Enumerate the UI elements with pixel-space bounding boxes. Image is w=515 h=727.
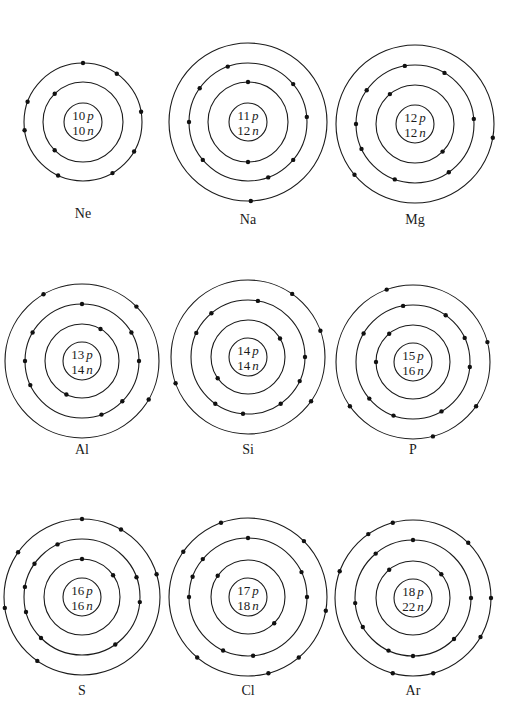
electron-dot [23,359,27,363]
electron-dot [35,659,39,663]
electron-dot [129,330,133,334]
electron-dot [403,64,407,68]
electron-dot [348,404,352,408]
electron-dot [16,550,20,554]
element-symbol-label: P [409,442,417,457]
proton-count: 12p [404,110,426,125]
neutron-count: 22n [402,599,424,614]
electron-dot [444,313,448,317]
atom-cl: 17p18nCl [169,518,328,698]
electron-dot [22,128,26,132]
electron-dot [53,148,57,152]
electron-dot [353,601,357,605]
electron-dot [55,542,59,546]
electron-dot [139,110,143,114]
electron-dot [209,311,213,315]
electron-dot [226,64,230,68]
proton-count: 16p [71,583,93,598]
proton-count: 14p [237,343,259,358]
electron-dot [194,331,198,335]
electron-dot [41,292,45,296]
electron-dot [361,625,365,629]
electron-dot [110,171,114,175]
electron-dot [266,175,270,179]
electron-dot [338,569,342,573]
electron-dot [359,147,363,151]
atom-ar: 18p22nAr [335,520,493,698]
electron-dot [173,381,177,385]
electron-dot [111,573,115,577]
electron-dot [318,329,322,333]
electron-dot [374,551,378,555]
electron-dot [447,170,451,174]
neutron-count: 16n [402,363,424,378]
electron-dot [219,521,223,525]
electron-dot [366,532,370,536]
electron-dot [39,636,43,640]
atom-si: 14p14nSi [171,280,325,457]
electron-dot [463,336,467,340]
electron-dot [80,557,84,561]
electron-dot [28,383,32,387]
electron-dot [391,521,395,525]
electron-dot [352,173,356,177]
element-symbol-label: Ar [406,683,421,698]
electron-dot [452,637,456,641]
electron-dot [81,61,85,65]
electron-dot [98,327,102,331]
neutron-count: 18n [237,598,259,613]
electron-dot [272,621,276,625]
electron-dot [472,117,476,121]
electron-dot [440,149,444,153]
proton-count: 18p [402,584,424,599]
electron-dot [278,336,282,340]
electron-dot [64,392,68,396]
electron-dot [23,585,27,589]
electron-dot [221,648,225,652]
electron-dot [115,72,119,76]
electron-dot [388,92,392,96]
electron-dot [99,412,103,416]
neutron-count: 12n [404,125,426,140]
electron-dot [361,331,365,335]
element-symbol-label: Si [242,442,254,457]
electron-dot [25,100,29,104]
neutron-count: 16n [71,598,93,613]
electron-dot [154,572,158,576]
element-symbol-label: Al [75,442,89,457]
electron-dot [411,654,415,658]
proton-count: 13p [71,347,93,362]
proton-count: 17p [237,583,259,598]
electron-dot [305,595,309,599]
electron-dot [80,302,84,306]
electron-dot [489,596,493,600]
electron-dot [198,86,202,90]
electron-dot [134,575,138,579]
electron-dot [478,635,482,639]
electron-dot [137,359,141,363]
electron-dot [466,541,470,545]
electron-dot [374,360,378,364]
electron-dot [391,671,395,675]
electron-dot [442,71,446,75]
electron-dot [132,149,136,153]
electron-dot [119,527,123,531]
electron-dot [439,409,443,413]
electron-dot [309,399,313,403]
electron-dot [216,376,220,380]
element-symbol-label: S [78,683,86,698]
electron-dot [246,160,250,164]
electron-dot [134,304,138,308]
electron-dot [213,402,217,406]
electron-dot [241,412,245,416]
electron-dot [474,404,478,408]
electron-dot [113,642,117,646]
electron-dot [251,654,255,658]
electron-dot [80,517,84,521]
electron-dot [431,671,435,675]
atom-mg: 12p12nMg [336,45,495,227]
electron-dot [485,340,489,344]
electron-dot [354,122,358,126]
electron-dot [365,88,369,92]
electron-dot [32,562,36,566]
